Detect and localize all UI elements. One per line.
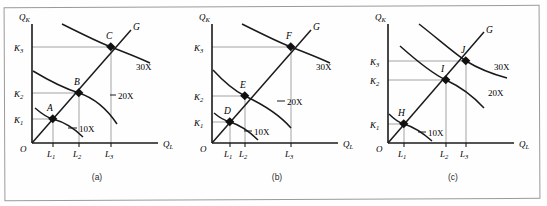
- panel-c-y-tick-3: K3: [369, 57, 380, 68]
- panel-b-caption: (b): [186, 172, 368, 182]
- panel-a-y-tick-1: K1: [13, 115, 23, 126]
- panel-b-point-label-d: D: [223, 106, 231, 116]
- panel-c-y-tick-2: K2: [369, 76, 380, 87]
- panel-c-x-tick-2: L2: [439, 149, 449, 160]
- panel-b-y-tick-1: K1: [193, 118, 203, 129]
- panel-b-isoquant-label-20x: 20X: [287, 97, 303, 107]
- panel-a: QK QL O K1 K2 K3 L1 L2 L3 10X 20X 30X A …: [6, 0, 188, 206]
- panel-a-x-tick-2: L2: [72, 149, 82, 160]
- panel-b-ray-label-g: G: [313, 22, 320, 32]
- panel-a-isoquant-label-30x: 30X: [136, 62, 152, 72]
- panel-a-isoquant-label-10x: 10X: [79, 124, 95, 134]
- panel-a-point-label-b: B: [74, 77, 80, 87]
- panel-c-x-tick-1: L1: [397, 149, 406, 160]
- panel-a-y-tick-2: K2: [13, 89, 24, 100]
- panel-c-point-label-i: I: [440, 64, 445, 74]
- panel-b-y-axis-label: QK: [199, 12, 211, 23]
- panel-b: QK QL O K1 K2 K3 L1 L2 L3 10X 20X 30X D …: [186, 0, 368, 206]
- panel-b-isoquant-label-30x: 30X: [316, 62, 332, 72]
- panel-a-x-axis-label: QL: [163, 139, 174, 150]
- panel-a-point-markers: [48, 42, 115, 123]
- panel-b-origin-label: O: [200, 144, 207, 154]
- isoquant-10x-b: [214, 113, 258, 140]
- panel-a-x-tick-1: L1: [46, 149, 55, 160]
- panel-b-point-label-f: F: [285, 31, 292, 41]
- panel-b-point-markers: [225, 42, 295, 126]
- isoquant-returns-to-scale-figure: QK QL O K1 K2 K3 L1 L2 L3 10X 20X 30X A …: [0, 0, 547, 206]
- panel-c-x-tick-3: L3: [459, 149, 469, 160]
- panel-a-point-label-a: A: [46, 103, 53, 113]
- panel-c-isoquant-label-20x: 20X: [488, 88, 504, 98]
- panel-c-point-label-h: H: [397, 108, 406, 118]
- panel-c-y-tick-1: K1: [369, 120, 379, 131]
- panel-a-caption: (a): [6, 172, 188, 182]
- panel-b-x-tick-2: L2: [238, 149, 248, 160]
- panel-a-isoquant-label-20x: 20X: [118, 91, 134, 101]
- panel-c-caption: (c): [362, 172, 544, 182]
- panel-a-axes: [32, 24, 158, 143]
- isoquant-20x-c: [400, 46, 484, 108]
- panel-b-point-label-e: E: [239, 80, 246, 90]
- panel-c-isoquant-label-10x: 10X: [428, 128, 444, 138]
- panel-a-x-tick-3: L3: [104, 149, 114, 160]
- panel-a-origin-label: O: [20, 144, 27, 154]
- panel-b-x-tick-3: L3: [284, 149, 294, 160]
- panel-c-isoquant-label-30x: 30X: [494, 62, 510, 72]
- panel-c-ray-label-g: G: [486, 25, 493, 35]
- panel-b-x-axis-label: QL: [343, 139, 354, 150]
- panel-c-gridlines: [388, 61, 466, 143]
- panel-a-ray-label-g: G: [133, 22, 140, 32]
- panel-c-x-axis-label: QL: [519, 139, 530, 150]
- panel-a-y-tick-3: K3: [13, 43, 24, 54]
- panel-c-origin-label: O: [376, 144, 383, 154]
- panel-b-y-tick-3: K3: [193, 43, 204, 54]
- panel-c: QK QL O K1 K2 K3 L1 L2 L3 10X 20X 30X H …: [362, 0, 544, 206]
- panel-b-isoquant-label-10x: 10X: [254, 127, 270, 137]
- panel-a-y-axis-label: QK: [19, 12, 31, 23]
- panel-b-y-tick-2: K2: [193, 92, 204, 103]
- panel-b-x-tick-1: L1: [223, 149, 232, 160]
- panel-c-y-axis-label: QK: [375, 12, 387, 23]
- panel-a-point-label-c: C: [106, 31, 113, 41]
